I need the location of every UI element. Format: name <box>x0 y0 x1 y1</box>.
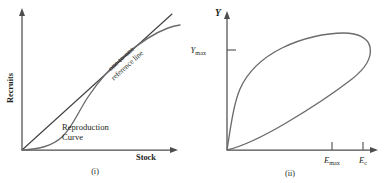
left-y-axis-label: Recruits <box>6 72 15 103</box>
left-y-axis-arrowhead <box>19 8 25 16</box>
left-x-axis-arrowhead <box>170 147 178 153</box>
reproduction-curve-label-line2: Curve <box>62 132 83 142</box>
reference-line-label-group: one-to-one reference line <box>103 41 146 82</box>
ymax-tick-label: Ymax <box>191 45 207 56</box>
figure-svg: Recruits Stock Reproduction Curve one-to… <box>0 0 384 183</box>
ec-tick-label-sub: c <box>364 159 367 166</box>
right-y-axis-label: Y <box>215 7 222 18</box>
figure-container: Recruits Stock Reproduction Curve one-to… <box>0 0 384 183</box>
ymax-tick-label-sub: max <box>195 49 207 56</box>
left-panel-caption: (i) <box>91 167 99 176</box>
left-x-axis-label: Stock <box>136 153 156 162</box>
ec-tick-label: Ec <box>358 155 367 166</box>
right-panel-caption: (ii) <box>285 169 295 178</box>
panel-right-group: Y Ymax Emax Ec (ii) <box>191 7 378 178</box>
emax-tick-label-sub: max <box>329 159 341 166</box>
right-x-axis-arrowhead <box>370 147 378 153</box>
yield-effort-loop <box>227 33 370 150</box>
panel-left-group: Recruits Stock Reproduction Curve one-to… <box>6 8 180 176</box>
emax-tick-label: Emax <box>323 155 341 166</box>
reproduction-curve-label-line1: Reproduction <box>62 122 109 132</box>
right-y-axis-arrowhead <box>224 11 230 19</box>
